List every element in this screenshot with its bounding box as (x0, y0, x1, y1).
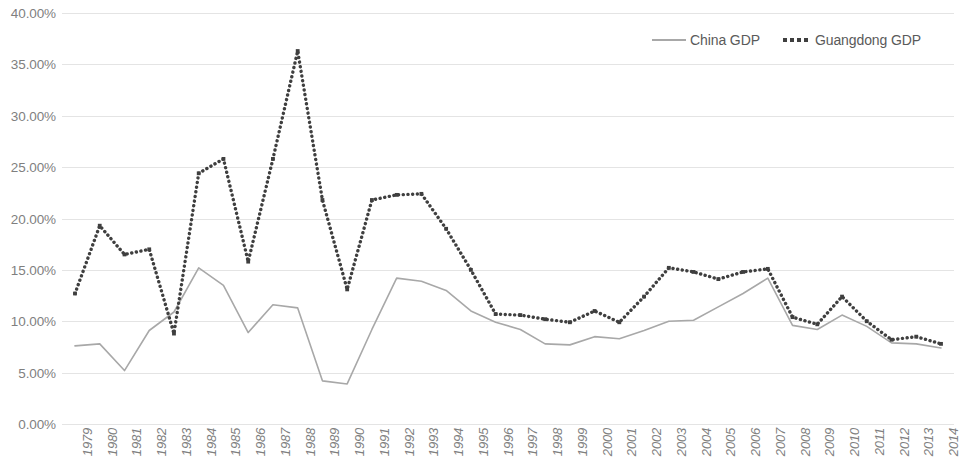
legend-entry-china-gdp[interactable]: China GDP (651, 32, 760, 48)
legend-swatch-dotted-line-icon (782, 35, 812, 45)
data-point-marker (642, 295, 646, 299)
x-axis-tick-label: 2008 (798, 428, 813, 456)
y-axis-tick-label: 20.00% (11, 211, 56, 226)
data-point-marker (939, 342, 943, 346)
series-line-guangdong-gdp (75, 51, 941, 344)
x-axis-tick-label: 1981 (129, 428, 144, 456)
x-axis-tick-label: 2006 (748, 428, 763, 456)
data-point-marker (667, 266, 671, 270)
data-point-marker (123, 253, 127, 257)
x-axis-tick-label: 2001 (624, 428, 639, 456)
x-axis-tick-label: 2013 (921, 428, 936, 456)
data-point-marker (370, 198, 374, 202)
x-axis-tick-label: 1999 (575, 428, 590, 456)
x-axis-tick-label: 2012 (897, 428, 912, 456)
data-point-marker (222, 157, 226, 161)
x-axis-tick-label: 1980 (105, 428, 120, 456)
y-axis: 0.00%5.00%10.00%15.00%20.00%25.00%30.00%… (0, 0, 62, 430)
legend-label: Guangdong GDP (815, 32, 921, 48)
y-axis-tick-label: 35.00% (11, 57, 56, 72)
chart-legend: China GDPGuangdong GDP (651, 32, 921, 48)
x-axis-tick-label: 1992 (402, 428, 417, 456)
data-point-marker (73, 292, 77, 296)
data-point-marker (469, 268, 473, 272)
data-point-marker (321, 198, 325, 202)
data-point-marker (791, 315, 795, 319)
plot-area (62, 13, 954, 424)
x-axis-tick-label: 1987 (278, 428, 293, 456)
x-axis-tick-label: 1998 (550, 428, 565, 456)
series-line-china-gdp (75, 268, 941, 384)
data-point-marker (766, 267, 770, 271)
y-axis-tick-label: 10.00% (11, 314, 56, 329)
x-axis-tick-label: 1982 (154, 428, 169, 456)
x-axis-tick-label: 1989 (327, 428, 342, 456)
data-point-marker (617, 320, 621, 324)
x-axis-tick-label: 1995 (476, 428, 491, 456)
x-axis-tick-label: 1986 (253, 428, 268, 456)
x-axis-tick-label: 1983 (179, 428, 194, 456)
data-point-marker (568, 320, 572, 324)
data-point-marker (172, 332, 176, 336)
data-point-marker (271, 157, 275, 161)
y-axis-tick-label: 30.00% (11, 108, 56, 123)
x-axis-tick-label: 1988 (303, 428, 318, 456)
data-point-marker (865, 319, 869, 323)
x-axis: 1979198019811982198319841985198619871988… (62, 424, 954, 469)
legend-entry-guangdong-gdp[interactable]: Guangdong GDP (782, 32, 921, 48)
data-point-marker (815, 322, 819, 326)
data-point-marker (543, 317, 547, 321)
x-axis-tick-label: 2014 (946, 428, 961, 456)
x-axis-tick-label: 2003 (674, 428, 689, 456)
data-point-marker (246, 260, 250, 264)
data-point-marker (692, 270, 696, 274)
y-axis-tick-label: 25.00% (11, 160, 56, 175)
x-axis-tick-label: 2009 (822, 428, 837, 456)
x-axis-tick-label: 2005 (723, 428, 738, 456)
legend-swatch-solid-line-icon (651, 35, 687, 45)
x-axis-tick-label: 2007 (773, 428, 788, 456)
x-axis-tick-label: 2011 (872, 428, 887, 455)
data-point-marker (518, 313, 522, 317)
data-point-marker (840, 295, 844, 299)
y-axis-tick-label: 0.00% (18, 417, 56, 432)
x-axis-tick-label: 2004 (699, 428, 714, 456)
x-axis-tick-label: 1997 (525, 428, 540, 456)
data-point-marker (741, 270, 745, 274)
data-point-marker (914, 335, 918, 339)
legend-label: China GDP (690, 32, 760, 48)
data-point-marker (494, 312, 498, 316)
y-axis-tick-label: 5.00% (18, 365, 56, 380)
y-axis-tick-label: 15.00% (11, 262, 56, 277)
data-point-marker (147, 247, 151, 251)
data-point-marker (296, 49, 300, 53)
x-axis-tick-label: 2010 (847, 428, 862, 456)
x-axis-tick-label: 1985 (228, 428, 243, 456)
x-axis-tick-label: 2002 (649, 428, 664, 456)
y-axis-tick-label: 40.00% (11, 6, 56, 21)
x-axis-tick-label: 1994 (451, 428, 466, 456)
data-point-marker (890, 338, 894, 342)
data-point-marker (444, 227, 448, 231)
x-axis-tick-label: 1990 (352, 428, 367, 456)
x-axis-tick-label: 1991 (377, 428, 392, 456)
data-point-marker (593, 309, 597, 313)
x-axis-tick-label: 1993 (426, 428, 441, 456)
data-point-marker (197, 171, 201, 175)
x-axis-tick-label: 1984 (204, 428, 219, 456)
x-axis-tick-label: 2000 (600, 428, 615, 456)
series-layer (62, 13, 954, 424)
data-point-marker (345, 288, 349, 292)
data-point-marker (98, 224, 102, 228)
data-point-marker (395, 193, 399, 197)
x-axis-tick-label: 1979 (80, 428, 95, 456)
x-axis-tick-label: 1996 (501, 428, 516, 456)
data-point-marker (420, 192, 424, 196)
data-point-marker (716, 277, 720, 281)
